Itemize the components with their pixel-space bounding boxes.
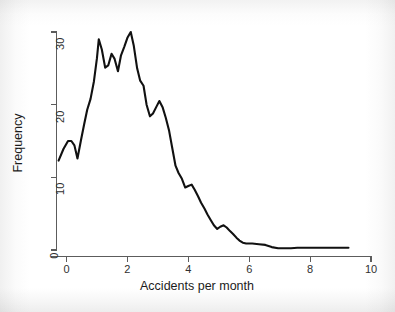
x-axis-tick-label: 4: [185, 264, 191, 275]
x-axis-tick-label: 0: [63, 264, 69, 275]
y-axis-tick-label: 10: [55, 183, 66, 195]
y-axis-tick-label: 30: [55, 38, 66, 50]
x-axis-tick-label: 6: [246, 264, 252, 275]
x-axis-tick-label: 8: [307, 264, 313, 275]
x-axis-title: Accidents per month: [140, 280, 254, 293]
frequency-chart-figure: 0102030 0246810 Accidents per month Freq…: [0, 0, 395, 312]
x-axis-ticks: [67, 257, 372, 263]
x-axis-tick-label: 10: [365, 264, 377, 275]
y-axis-title: Frequency: [12, 113, 25, 172]
y-axis-tick-label: 20: [55, 110, 66, 122]
y-axis-ticks: [51, 32, 57, 250]
x-axis-tick-label: 2: [124, 264, 130, 275]
frequency-polygon-line: [59, 32, 349, 248]
y-axis-tick-label: 0: [49, 253, 60, 259]
